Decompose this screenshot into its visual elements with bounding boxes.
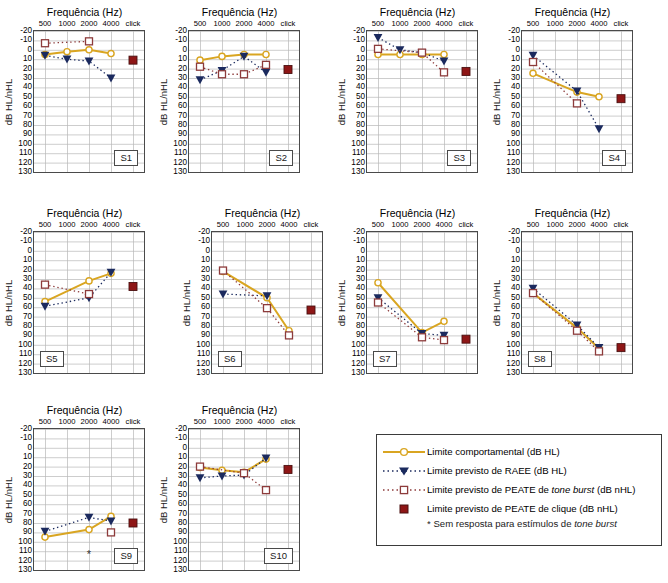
x-tick-4000: 4000 <box>591 19 608 28</box>
y-tick-70: 70 <box>356 312 365 320</box>
y-tick-100: 100 <box>196 341 210 349</box>
y-tick-130: 130 <box>506 168 520 176</box>
y-tick-80: 80 <box>178 519 187 527</box>
x-tick-4000: 4000 <box>436 19 453 28</box>
data-point-triangle <box>219 290 228 298</box>
y-tick-60: 60 <box>23 303 32 311</box>
legend-label-asse: Limite previsto de RAEE (dB HL) <box>427 465 567 476</box>
data-point-square <box>197 63 204 70</box>
filled-square-marker-icon <box>381 501 427 517</box>
y-tick-100: 100 <box>173 538 187 546</box>
x-tick-labels: 500100020004000click <box>34 220 146 231</box>
y-tick--20: -20 <box>175 27 187 35</box>
x-tick-1000: 1000 <box>547 220 564 229</box>
y-tick-50: 50 <box>511 294 520 302</box>
data-point-triangle <box>41 528 50 536</box>
y-tick-labels: -20-100102030405060708090100110120130 <box>169 30 188 173</box>
x-tick-1000: 1000 <box>392 220 409 229</box>
y-tick-90: 90 <box>356 130 365 138</box>
y-tick-110: 110 <box>174 547 187 555</box>
y-tick-70: 70 <box>23 111 32 119</box>
audiogram-panel-s7: Frequência (Hz)500100020004000clickdB HL… <box>335 207 490 374</box>
y-tick-0: 0 <box>182 444 187 452</box>
y-tick-60: 60 <box>23 102 32 110</box>
data-point-square <box>86 38 93 45</box>
legend-label-behavioral: Limite comportamental (dB HL) <box>427 446 560 457</box>
y-tick-10: 10 <box>356 55 365 63</box>
y-tick-labels: -20-100102030405060708090100110120130 <box>347 30 366 173</box>
x-tick-500: 500 <box>372 220 385 229</box>
x-tick-2000: 2000 <box>259 220 276 229</box>
legend-item-click: Limite previsto de PEATE de clique (dB n… <box>381 499 657 518</box>
y-tick-90: 90 <box>201 331 210 339</box>
x-tick-2000: 2000 <box>81 417 98 426</box>
data-point-square <box>375 45 382 52</box>
data-point-fsquare <box>129 519 137 527</box>
y-tick-90: 90 <box>23 130 32 138</box>
data-point-square <box>530 290 537 297</box>
data-point-square <box>108 529 115 536</box>
x-tick-labels: 500100020004000click <box>522 220 634 231</box>
y-tick--20: -20 <box>508 27 520 35</box>
y-axis-title-text: dB HL/nHL <box>336 75 347 129</box>
x-tick-500: 500 <box>39 220 52 229</box>
subject-id-badge: S10 <box>264 548 293 564</box>
y-tick--10: -10 <box>508 237 520 245</box>
y-tick-20: 20 <box>356 64 365 72</box>
y-tick-110: 110 <box>352 149 365 157</box>
data-point-square <box>197 463 204 470</box>
x-tick-1000: 1000 <box>237 220 254 229</box>
y-tick-40: 40 <box>23 481 32 489</box>
y-tick-10: 10 <box>511 55 520 63</box>
y-tick-120: 120 <box>173 158 187 166</box>
plot-area: S4 <box>521 30 633 173</box>
x-tick-click: click <box>126 19 141 28</box>
y-tick--10: -10 <box>353 36 365 44</box>
data-point-fsquare <box>129 283 137 291</box>
y-axis-title-text: dB HL/nHL <box>158 473 169 527</box>
data-point-circle <box>86 526 92 532</box>
x-tick-click: click <box>281 417 296 426</box>
y-axis-title: dB HL/nHL <box>335 30 347 173</box>
y-tick-120: 120 <box>173 556 187 564</box>
line-circle-marker-icon <box>381 444 427 460</box>
data-point-fsquare <box>129 56 137 64</box>
data-point-square <box>441 337 448 344</box>
y-tick-labels: -20-100102030405060708090100110120130 <box>14 30 33 173</box>
x-tick-labels: 500100020004000click <box>189 417 301 428</box>
y-tick-20: 20 <box>511 64 520 72</box>
y-tick-90: 90 <box>23 331 32 339</box>
y-tick-10: 10 <box>201 256 210 264</box>
y-tick-30: 30 <box>23 472 32 480</box>
y-tick-0: 0 <box>205 247 210 255</box>
y-tick-90: 90 <box>511 130 520 138</box>
data-point-square <box>574 327 581 334</box>
y-tick--20: -20 <box>20 27 32 35</box>
y-tick-100: 100 <box>18 538 32 546</box>
x-tick-500: 500 <box>527 220 540 229</box>
audiogram-panel-s2: Frequência (Hz)500100020004000clickdB HL… <box>157 6 312 173</box>
data-point-square <box>441 69 448 76</box>
y-tick--20: -20 <box>353 228 365 236</box>
x-tick-4000: 4000 <box>103 417 120 426</box>
data-point-fsquare <box>307 306 315 314</box>
data-point-square <box>263 61 270 68</box>
y-tick-0: 0 <box>27 46 32 54</box>
audiogram-panel-s4: Frequência (Hz)500100020004000clickdB HL… <box>490 6 645 173</box>
data-point-square <box>375 299 382 306</box>
y-tick-110: 110 <box>352 350 365 358</box>
y-tick-120: 120 <box>18 158 32 166</box>
y-tick-120: 120 <box>506 158 520 166</box>
audiogram-panel-s9: Frequência (Hz)500100020004000clickdB HL… <box>2 404 157 571</box>
y-tick-80: 80 <box>23 322 32 330</box>
subject-id-badge: S5 <box>40 351 64 367</box>
y-tick-80: 80 <box>356 121 365 129</box>
y-tick-60: 60 <box>178 102 187 110</box>
y-tick-10: 10 <box>23 55 32 63</box>
x-tick-4000: 4000 <box>591 220 608 229</box>
no-response-asterisk: * <box>87 548 92 560</box>
y-axis-title-text: dB HL/nHL <box>336 276 347 330</box>
data-point-square <box>419 49 426 56</box>
panel-xaxis-title: Frequência (Hz) <box>345 207 490 220</box>
data-point-circle <box>219 53 225 59</box>
